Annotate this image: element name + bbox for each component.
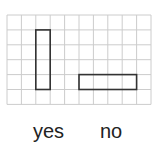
- label-no: no: [100, 121, 122, 141]
- grid-diagram: [0, 0, 156, 110]
- label-yes: yes: [33, 121, 64, 141]
